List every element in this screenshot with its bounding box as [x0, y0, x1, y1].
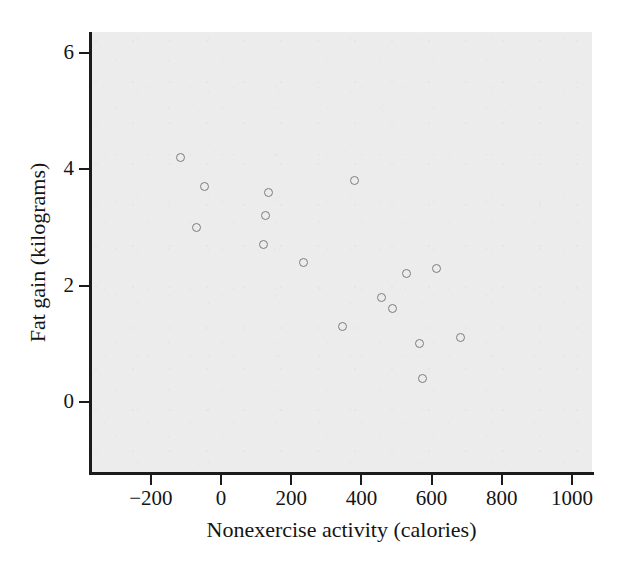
data-point	[338, 322, 347, 331]
x-axis-tick-label: 600	[392, 488, 472, 509]
x-axis-tick	[431, 475, 433, 485]
x-axis-tick-label: 200	[251, 488, 331, 509]
data-point	[377, 293, 386, 302]
data-point	[176, 153, 185, 162]
y-axis-tick	[79, 401, 90, 403]
x-axis-tick	[150, 475, 152, 485]
x-axis-tick-label: 0	[181, 488, 261, 509]
data-point	[264, 188, 273, 197]
y-axis-tick	[79, 285, 90, 287]
data-point	[192, 223, 201, 232]
x-axis-line	[89, 472, 594, 475]
data-point	[456, 333, 465, 342]
data-point	[432, 264, 441, 273]
y-axis-tick	[79, 168, 90, 170]
x-axis-tick-label: 800	[462, 488, 542, 509]
data-point	[259, 240, 268, 249]
scatter-plot-figure: 0246 −20002004006008001000 Nonexercise a…	[0, 0, 628, 574]
x-axis-tick-label: 400	[321, 488, 401, 509]
x-axis-tick	[290, 475, 292, 485]
x-axis-title: Nonexercise activity (calories)	[91, 517, 592, 543]
x-axis-tick	[220, 475, 222, 485]
x-axis-tick-label: −200	[111, 488, 191, 509]
data-point	[299, 258, 308, 267]
plot-area	[91, 32, 592, 473]
y-axis-tick	[79, 52, 90, 54]
x-axis-tick	[571, 475, 573, 485]
y-axis-line	[89, 32, 92, 475]
x-axis-tick	[360, 475, 362, 485]
x-axis-tick-label: 1000	[532, 488, 612, 509]
y-axis-title: Fat gain (kilograms)	[21, 32, 55, 473]
x-axis-tick	[501, 475, 503, 485]
